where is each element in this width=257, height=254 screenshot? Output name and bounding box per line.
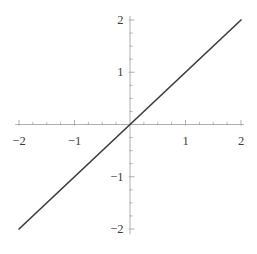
- x-tick-label: 2: [238, 134, 244, 148]
- y-tick-label: −1: [110, 170, 123, 184]
- x-tick-label: 1: [182, 134, 188, 148]
- x-tick-label: −2: [12, 134, 25, 148]
- line-plot-canvas: −2−112−2−112: [0, 0, 257, 254]
- x-tick-label: −1: [68, 134, 81, 148]
- y-tick-label: 1: [117, 65, 123, 79]
- y-tick-label: −2: [110, 222, 123, 236]
- y-tick-label: 2: [117, 13, 123, 27]
- plot-figure: −2−112−2−112: [0, 0, 257, 254]
